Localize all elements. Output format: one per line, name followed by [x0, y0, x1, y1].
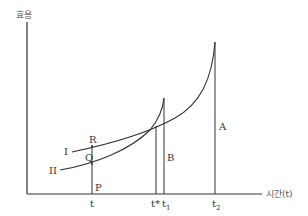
x-axis-label: 시간(t)	[266, 189, 293, 199]
tick-t: t	[90, 199, 94, 209]
point-Q	[91, 163, 93, 165]
curve-I-label: I	[64, 147, 68, 157]
tick-tstar: t*	[151, 199, 160, 209]
point-P-label: P	[95, 183, 102, 193]
segment-B-label: B	[167, 153, 174, 163]
tick-t2: t2	[212, 199, 221, 213]
curve-II	[60, 98, 164, 170]
point-R	[91, 145, 93, 147]
tick-t1: t1	[162, 199, 171, 213]
curve-II-label: II	[49, 166, 57, 176]
point-R-label: R	[89, 135, 97, 145]
utility-diagram	[0, 0, 308, 216]
segment-A-label: A	[219, 122, 226, 132]
y-axis-label: 효용	[16, 10, 32, 20]
point-Q-label: Q	[85, 153, 93, 163]
